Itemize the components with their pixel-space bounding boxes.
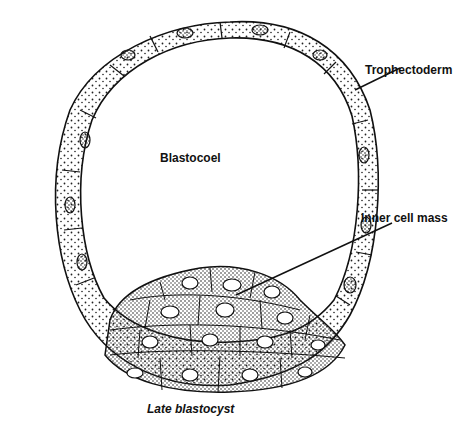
diagram-caption: Late blastocyst	[147, 402, 234, 416]
inner-cell-mass-label: Inner cell mass	[361, 211, 448, 225]
trophectoderm-label: Trophectoderm	[365, 63, 452, 77]
blastocoel-label: Blastocoel	[160, 151, 221, 165]
